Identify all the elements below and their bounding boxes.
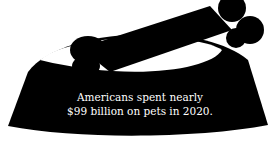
caption-line-2: $99 billion on pets in 2020.	[40, 104, 240, 118]
caption: Americans spent nearly $99 billion on pe…	[40, 90, 240, 118]
dog-bowl-illustration	[0, 0, 280, 141]
caption-line-1: Americans spent nearly	[40, 90, 240, 104]
